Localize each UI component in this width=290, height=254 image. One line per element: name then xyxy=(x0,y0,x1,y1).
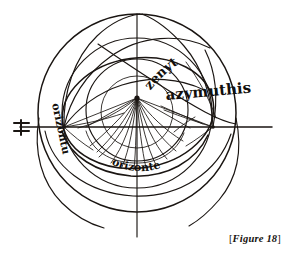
label-azimuth-visible: azymuthis xyxy=(165,79,252,104)
astrolabe-projection-drawing: zenyth azymuthis orizontu orizonte xyxy=(0,0,290,254)
label-zenith: zenyth xyxy=(0,0,180,92)
figure-18-container: zenyth azymuthis orizontu orizonte [Figu… xyxy=(0,0,290,254)
caption-label: Figure 18 xyxy=(233,233,278,244)
figure-caption: [Figure 18] xyxy=(229,233,281,244)
label-zenith-text: zenyth xyxy=(0,0,180,92)
azimuth-circle-arc xyxy=(186,127,213,146)
horizon-right-node xyxy=(211,125,215,129)
azimuth-ray xyxy=(86,98,137,127)
caption-close-bracket: ] xyxy=(277,233,281,244)
zenith-point xyxy=(134,95,139,100)
